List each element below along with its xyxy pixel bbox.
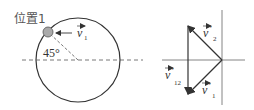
- v2-prime-label: v ′ 2: [203, 24, 217, 43]
- v1-prime-label: v ′ 1: [202, 81, 216, 100]
- v1-subscript: 1: [84, 34, 88, 42]
- v12-prime-label: v ′ 12: [165, 66, 182, 87]
- v2-prime-subscript: 2: [213, 35, 217, 43]
- position-label: 位置1: [14, 11, 46, 26]
- circular-motion-figure: 位置1 45° v 1: [14, 11, 143, 102]
- v12-prime-mark: ′: [172, 66, 174, 76]
- v1-prime-symbol: v: [202, 83, 208, 97]
- physics-diagram: 位置1 45° v 1 v ′ 2 v ′ 12 v ′: [0, 0, 254, 110]
- v12-prime-subscript: 12: [174, 79, 182, 87]
- v1-symbol: v: [77, 26, 83, 40]
- v2-prime-mark: ′: [210, 24, 212, 34]
- v2-prime-symbol: v: [203, 26, 209, 40]
- v1-label: v 1: [77, 26, 88, 42]
- v1-prime-subscript: 1: [212, 92, 216, 100]
- vector-triangle-figure: v ′ 2 v ′ 12 v ′ 1: [162, 10, 245, 105]
- v12-prime-symbol: v: [165, 68, 171, 82]
- angle-label: 45°: [43, 46, 60, 60]
- ball: [43, 27, 53, 37]
- v1-prime-mark: ′: [209, 81, 211, 91]
